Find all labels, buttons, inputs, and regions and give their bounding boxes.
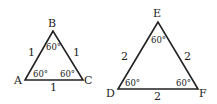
diagram: B A C 1 1 1 60° 60° 60° E D F 2 2 2 60° … xyxy=(0,0,217,104)
side-ab-label: 1 xyxy=(28,46,35,59)
angle-c-label: 60° xyxy=(60,69,75,79)
angle-e-label: 60° xyxy=(151,35,166,45)
vertex-c-label: C xyxy=(84,74,92,87)
vertex-b-label: B xyxy=(48,17,56,30)
triangle-abc: B A C 1 1 1 60° 60° 60° xyxy=(13,17,92,94)
triangle-def: E D F 2 2 2 60° 60° 60° xyxy=(106,7,207,103)
side-bc-label: 1 xyxy=(73,46,80,59)
side-df-label: 2 xyxy=(154,90,161,103)
side-ac-label: 1 xyxy=(50,81,57,94)
side-ef-label: 2 xyxy=(184,50,191,63)
triangles-figure: B A C 1 1 1 60° 60° 60° E D F 2 2 2 60° … xyxy=(0,0,217,104)
side-de-label: 2 xyxy=(121,50,128,63)
angle-b-label: 60° xyxy=(46,42,61,52)
vertex-a-label: A xyxy=(13,74,23,87)
angle-f-label: 60° xyxy=(176,78,191,88)
angle-a-label: 60° xyxy=(33,69,48,79)
vertex-d-label: D xyxy=(106,87,115,100)
vertex-f-label: F xyxy=(199,87,207,100)
vertex-e-label: E xyxy=(153,7,161,20)
angle-d-label: 60° xyxy=(125,78,140,88)
